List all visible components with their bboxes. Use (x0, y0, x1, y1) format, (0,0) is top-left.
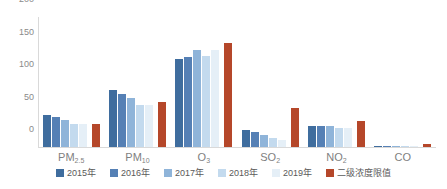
bar-group-co (370, 17, 436, 147)
bar-so2-series-4[interactable] (278, 140, 286, 147)
bar-group-no2 (303, 17, 369, 147)
x-label-base: SO (260, 151, 276, 163)
bar-so2-series-5[interactable] (291, 108, 299, 147)
legend-swatch-icon (272, 169, 280, 177)
bar-no2-series-0[interactable] (308, 126, 316, 147)
x-label-o3: O3 (171, 150, 237, 166)
legend-item-1[interactable]: 2016年 (110, 168, 150, 178)
legend-swatch-icon (218, 169, 226, 177)
bar-o3-series-1[interactable] (184, 57, 192, 147)
legend-swatch-icon (110, 169, 118, 177)
bar-no2-series-4[interactable] (344, 128, 352, 148)
x-label-so2: SO2 (237, 150, 303, 166)
chart-legend: 2015年2016年2017年2018年2019年二级浓度限值 (0, 168, 447, 178)
legend-label: 2016年 (121, 168, 150, 178)
bar-pm2-5-series-5[interactable] (92, 124, 100, 147)
legend-label: 二级浓度限值 (337, 168, 391, 178)
legend-swatch-icon (56, 169, 64, 177)
legend-label: 2017年 (175, 168, 204, 178)
bar-so2-series-0[interactable] (242, 130, 250, 147)
bar-so2-series-1[interactable] (251, 132, 259, 147)
x-label-subscript: 2 (276, 157, 280, 164)
bar-so2-series-2[interactable] (260, 135, 268, 147)
y-axis-tick: 0 (29, 125, 34, 134)
bar-co-series-1[interactable] (383, 146, 391, 147)
bar-co-series-4[interactable] (410, 146, 418, 147)
air-quality-bar-chart: 200150100500 PM2.5PM10O3SO2NO2CO 2015年20… (0, 0, 447, 189)
y-axis-tick: 100 (19, 60, 34, 69)
bar-pm2-5-series-4[interactable] (79, 124, 87, 147)
bar-pm2-5-series-1[interactable] (52, 117, 60, 147)
y-axis-tick-labels: 200150100500 (0, 0, 34, 131)
bar-pm10-series-0[interactable] (109, 90, 117, 147)
legend-swatch-icon (326, 169, 334, 177)
bar-pm10-series-4[interactable] (145, 105, 153, 147)
bar-group-o3 (171, 17, 237, 147)
bar-pm2-5-series-2[interactable] (61, 120, 69, 147)
x-label-co: CO (370, 150, 436, 166)
x-label-subscript: 2 (343, 157, 347, 164)
x-axis-line (38, 147, 436, 148)
x-label-subscript: 10 (142, 157, 150, 164)
bar-no2-series-2[interactable] (326, 126, 334, 147)
bar-pm2-5-series-3[interactable] (70, 124, 78, 147)
legend-item-0[interactable]: 2015年 (56, 168, 96, 178)
x-label-pm10: PM10 (104, 150, 170, 166)
x-label-subscript: 2.5 (75, 157, 85, 164)
legend-item-3[interactable]: 2018年 (218, 168, 258, 178)
x-label-base: O (198, 151, 207, 163)
bar-no2-series-3[interactable] (335, 128, 343, 147)
bar-co-series-2[interactable] (392, 146, 400, 147)
bar-group-pm10 (104, 17, 170, 147)
bar-o3-series-5[interactable] (224, 43, 232, 147)
x-label-base: PM (58, 151, 75, 163)
y-axis-tick: 150 (19, 28, 34, 37)
bar-o3-series-0[interactable] (175, 59, 183, 147)
bar-no2-series-5[interactable] (357, 121, 365, 147)
x-label-pm2-5: PM2.5 (38, 150, 104, 166)
x-label-subscript: 3 (206, 157, 210, 164)
legend-label: 2015年 (67, 168, 96, 178)
bar-pm10-series-2[interactable] (127, 98, 135, 147)
x-axis-category-labels: PM2.5PM10O3SO2NO2CO (38, 150, 436, 166)
y-axis-tick: 200 (19, 0, 34, 4)
bar-o3-series-4[interactable] (211, 50, 219, 147)
legend-swatch-icon (164, 169, 172, 177)
bar-o3-series-3[interactable] (202, 56, 210, 147)
bar-o3-series-2[interactable] (193, 50, 201, 148)
x-label-base: PM (125, 151, 142, 163)
bar-pm10-series-1[interactable] (118, 94, 126, 147)
x-label-no2: NO2 (303, 150, 369, 166)
bar-group-so2 (237, 17, 303, 147)
x-label-base: CO (395, 151, 412, 163)
bar-groups (38, 17, 436, 147)
bar-pm10-series-5[interactable] (158, 102, 166, 148)
legend-label: 2019年 (283, 168, 312, 178)
legend-item-5[interactable]: 二级浓度限值 (326, 168, 391, 178)
legend-item-4[interactable]: 2019年 (272, 168, 312, 178)
bar-pm2-5-series-0[interactable] (43, 115, 51, 147)
bar-co-series-3[interactable] (401, 146, 409, 147)
legend-item-2[interactable]: 2017年 (164, 168, 204, 178)
bar-co-series-5[interactable] (423, 144, 431, 147)
bar-so2-series-3[interactable] (269, 138, 277, 147)
x-label-base: NO (326, 151, 343, 163)
bar-co-series-0[interactable] (374, 146, 382, 147)
y-axis-tick: 50 (24, 93, 34, 102)
bar-no2-series-1[interactable] (317, 126, 325, 147)
legend-label: 2018年 (229, 168, 258, 178)
bar-group-pm2-5 (38, 17, 104, 147)
bar-pm10-series-3[interactable] (136, 105, 144, 147)
